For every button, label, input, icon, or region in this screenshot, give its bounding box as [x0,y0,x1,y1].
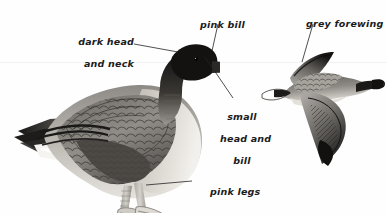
flying-goose-illustration [260,42,385,172]
label-dark-head-and-neck: dark head and neck [60,25,134,80]
label-grey-forewing-text: grey forewing [306,18,383,29]
label-small-head-and-bill-line1: small [227,111,256,122]
label-dark-head-and-neck-line1: dark head [78,36,134,47]
label-small-head-and-bill: small head and bill [206,100,264,177]
label-grey-forewing: grey forewing [292,7,383,40]
label-pink-bill-text: pink bill [200,19,245,30]
label-pink-bill: pink bill [186,8,245,41]
label-pink-legs-text: pink legs [210,186,260,197]
label-pink-legs: pink legs [196,175,260,208]
label-small-head-and-bill-line3: bill [233,155,250,166]
label-small-head-and-bill-line2: head and [220,133,271,144]
label-dark-head-and-neck-line2: and neck [84,58,134,69]
illustration-plate: dark head and neck pink bill grey forewi… [0,0,387,215]
